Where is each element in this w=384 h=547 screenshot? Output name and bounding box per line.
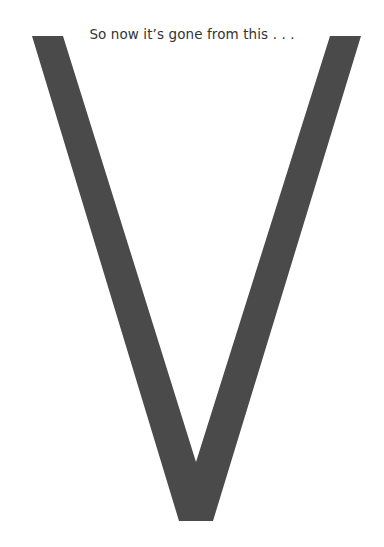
large-letter-v — [0, 0, 384, 547]
caption-text: So now it’s gone from this . . . — [0, 26, 384, 42]
letter-v-shape — [32, 36, 361, 521]
